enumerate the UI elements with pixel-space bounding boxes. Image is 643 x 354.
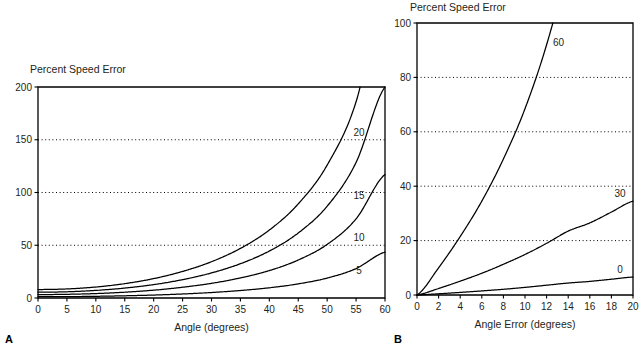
- x-tick-label-40: 40: [264, 304, 276, 315]
- figure-canvas: Percent Speed Error050100150200051015202…: [0, 0, 643, 354]
- x-tick-label-30: 30: [206, 304, 218, 315]
- curve-label-0: 0: [617, 264, 623, 275]
- curve-label-20: 20: [353, 127, 365, 138]
- y-tick-label-40: 40: [400, 181, 412, 192]
- plot-title: Percent Speed Error: [410, 1, 506, 13]
- x-tick-label-0: 0: [414, 301, 420, 312]
- curve-5: [38, 252, 385, 297]
- y-tick-label-20: 20: [400, 235, 412, 246]
- x-axis-title: Angle Error (degrees): [475, 318, 576, 330]
- x-tick-label-14: 14: [563, 301, 575, 312]
- panel-a-letter: A: [5, 333, 13, 345]
- y-tick-label-200: 200: [15, 82, 32, 93]
- x-tick-label-35: 35: [235, 304, 247, 315]
- panel-b-letter: B: [394, 333, 402, 345]
- x-tick-label-18: 18: [606, 301, 618, 312]
- panel-b-plot: Percent Speed Error020406080100024681012…: [380, 0, 643, 334]
- curve-label-5: 5: [356, 265, 362, 276]
- y-tick-label-100: 100: [394, 18, 411, 29]
- x-tick-label-20: 20: [627, 301, 639, 312]
- curve-label-10: 10: [353, 232, 365, 243]
- y-tick-label-100: 100: [15, 187, 32, 198]
- x-tick-label-55: 55: [351, 304, 363, 315]
- y-tick-label-80: 80: [400, 72, 412, 83]
- x-tick-label-0: 0: [35, 304, 41, 315]
- y-tick-label-50: 50: [21, 240, 33, 251]
- panel-b: Percent Speed Error020406080100024681012…: [380, 0, 643, 334]
- x-tick-label-10: 10: [519, 301, 531, 312]
- curve-20: [38, 87, 360, 290]
- curve-label-60: 60: [553, 37, 565, 48]
- x-tick-label-2: 2: [436, 301, 442, 312]
- x-tick-label-5: 5: [64, 304, 70, 315]
- x-tick-label-50: 50: [322, 304, 334, 315]
- x-tick-label-4: 4: [457, 301, 463, 312]
- x-tick-label-15: 15: [119, 304, 131, 315]
- x-tick-label-10: 10: [90, 304, 102, 315]
- y-tick-label-150: 150: [15, 134, 32, 145]
- x-axis-title: Angle (degrees): [174, 321, 249, 333]
- panel-a: Percent Speed Error050100150200051015202…: [0, 0, 400, 334]
- y-tick-label-60: 60: [400, 126, 412, 137]
- x-tick-label-16: 16: [584, 301, 596, 312]
- x-tick-label-8: 8: [501, 301, 507, 312]
- y-tick-label-0: 0: [26, 293, 32, 304]
- curve-label-30: 30: [614, 188, 626, 199]
- x-tick-label-25: 25: [177, 304, 189, 315]
- y-tick-label-0: 0: [405, 290, 411, 301]
- curve-0: [417, 277, 633, 295]
- x-tick-label-6: 6: [479, 301, 485, 312]
- x-tick-label-12: 12: [541, 301, 553, 312]
- curve-label-15: 15: [353, 190, 365, 201]
- x-tick-label-20: 20: [148, 304, 160, 315]
- panel-a-plot: Percent Speed Error050100150200051015202…: [0, 0, 400, 334]
- plot-title: Percent Speed Error: [30, 63, 126, 75]
- x-tick-label-45: 45: [293, 304, 305, 315]
- curve-60: [417, 23, 553, 295]
